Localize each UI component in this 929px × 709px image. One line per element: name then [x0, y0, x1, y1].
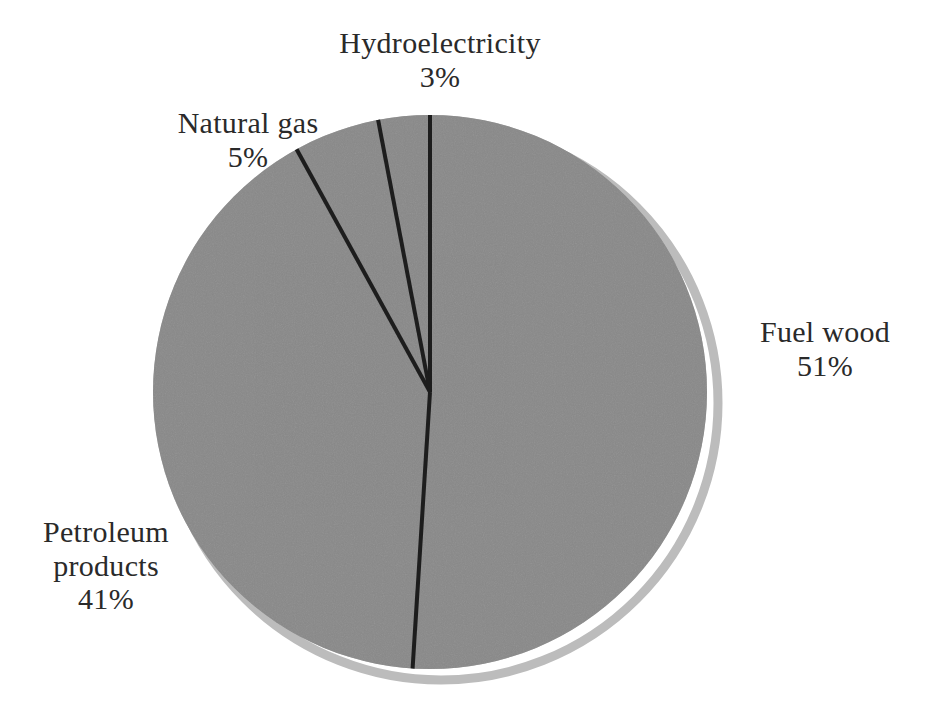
slice-label-hydroelectricity-name: Hydroelectricity	[290, 26, 590, 60]
slice-label-hydroelectricity: Hydroelectricity 3%	[290, 26, 590, 93]
slice-label-petroleum-products-percent: 41%	[6, 582, 206, 616]
slice-label-petroleum-products-name-line1: Petroleum	[6, 515, 206, 549]
slice-label-fuel-wood: Fuel wood 51%	[722, 315, 928, 382]
slice-label-natural-gas-percent: 5%	[128, 140, 368, 174]
slice-label-petroleum-products-name-line2: products	[6, 549, 206, 583]
slice-label-petroleum-products: Petroleum products 41%	[6, 515, 206, 616]
slice-label-fuel-wood-name: Fuel wood	[722, 315, 928, 349]
pie-chart-figure: Hydroelectricity 3% Natural gas 5% Fuel …	[0, 0, 929, 709]
slice-label-hydroelectricity-percent: 3%	[290, 60, 590, 94]
slice-label-fuel-wood-percent: 51%	[722, 349, 928, 383]
slice-label-natural-gas-name: Natural gas	[128, 106, 368, 140]
slice-label-natural-gas: Natural gas 5%	[128, 106, 368, 173]
